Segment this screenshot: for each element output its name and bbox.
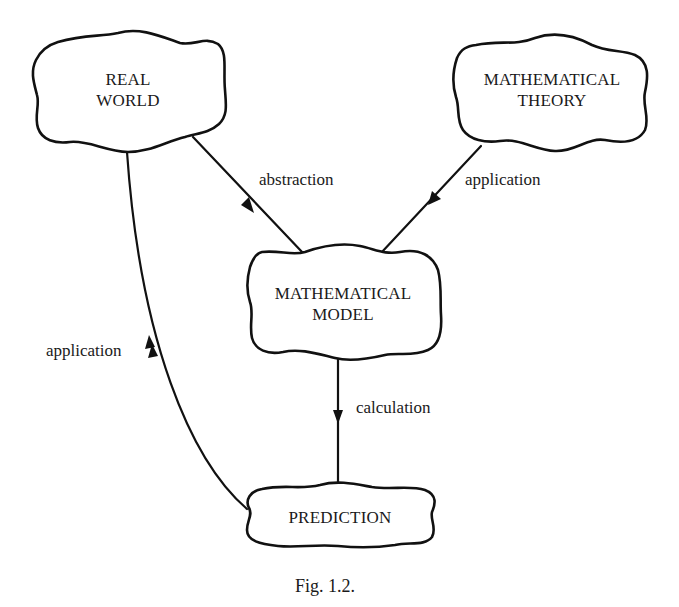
- node-mathematical-theory: MATHEMATICAL THEORY: [484, 69, 621, 111]
- double-arrowhead-icon: [145, 335, 155, 349]
- edge-calculation: [333, 358, 343, 483]
- arrowhead-icon: [333, 410, 343, 424]
- edge-label-calculation: calculation: [356, 398, 431, 418]
- edge-application-prediction: [127, 152, 247, 509]
- node-mathematical-theory-line2: THEORY: [484, 90, 621, 111]
- arrowhead-icon: [428, 191, 441, 205]
- node-prediction-line1: PREDICTION: [288, 507, 391, 528]
- edge-label-application-prediction: application: [46, 341, 122, 361]
- node-real-world-line1: REAL: [96, 69, 159, 90]
- node-real-world: REAL WORLD: [96, 69, 159, 111]
- node-mathematical-model: MATHEMATICAL MODEL: [275, 283, 412, 325]
- edge-abstraction: [193, 137, 303, 253]
- edge-label-application-theory: application: [465, 170, 541, 190]
- node-mathematical-model-line1: MATHEMATICAL: [275, 283, 412, 304]
- node-real-world-line2: WORLD: [96, 90, 159, 111]
- node-mathematical-theory-line1: MATHEMATICAL: [484, 69, 621, 90]
- figure-caption: Fig. 1.2.: [295, 576, 355, 597]
- edge-application-theory: [381, 146, 481, 253]
- node-prediction: PREDICTION: [288, 507, 391, 528]
- node-mathematical-model-line2: MODEL: [275, 304, 412, 325]
- edge-label-abstraction: abstraction: [259, 170, 334, 190]
